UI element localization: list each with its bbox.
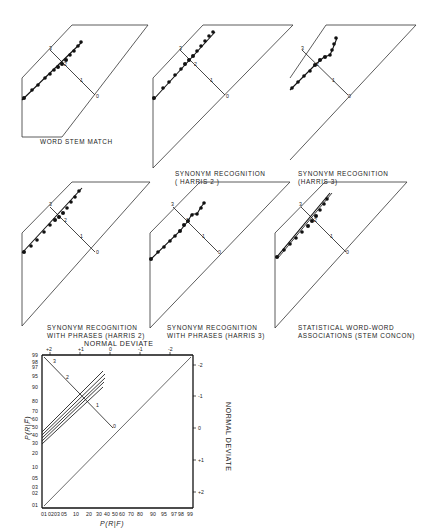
right-axis-title: NORMAL DEVIATE [225,402,232,471]
right-tick: -1 [198,393,203,399]
x-tick: 01 [41,511,47,517]
x-tick: 95 [161,511,167,517]
diag-tick-1: 1 [80,77,83,83]
panel-synonym-harris-2: 3 2 1 0 SYNONYM RECOGNITION( HARRIS 2 ) [145,20,295,180]
diag-tick-3: 3 [171,201,174,207]
diag-tick-0: 0 [96,249,99,255]
diag-tick-2: 2 [194,61,197,67]
panel-label [198,308,203,324]
diag-tick-3: 3 [301,45,304,51]
panel-label: WORD STEM MATCH [40,122,113,162]
diag-tick-0: 0 [346,249,349,255]
diag-tick-1: 1 [96,402,99,408]
top-tick: -1 [138,346,143,352]
x-tick: 03 [54,511,60,517]
y-tick: 90 [32,384,38,390]
y-tick: 40 [32,432,38,438]
x-tick: 70 [128,511,134,517]
diag-tick-0: 0 [96,93,99,99]
x-tick: 60 [119,511,125,517]
normal-deviate-chart: NORMAL DEVIATE +2 +1 0 -1 -2 -2 -1 0 +1 … [0,340,439,532]
diag-tick-1: 1 [80,233,83,239]
y-tick: 60 [32,416,38,422]
x-tick: 40 [104,511,110,517]
y-tick: 30 [32,440,38,446]
diag-tick-1: 1 [202,233,205,239]
top-tick: +1 [78,346,84,352]
y-tick: 02 [32,490,38,496]
diag-tick-1: 1 [330,233,333,239]
main-plot [0,340,439,532]
y-tick: 99 [32,352,38,358]
panel-synonym-phrases-harris-2: 3 2 1 0 SYNONYM RECOGNITIONWITH PHRASES … [0,180,150,340]
y-tick: 05 [32,475,38,481]
diag-tick-0: 0 [113,423,116,429]
panel-word-stem-match: 3 2 1 0 WORD STEM MATCH [0,20,150,180]
x-tick: 10 [73,511,79,517]
top-tick: +2 [46,346,52,352]
diag-tick-3: 3 [179,45,182,51]
x-tick: 05 [61,511,67,517]
x-axis-title: P(R|F) [100,520,124,527]
right-tick: 0 [198,425,201,431]
x-tick: 02 [48,511,54,517]
diag-tick-2: 2 [314,217,317,223]
x-tick: 98 [178,511,184,517]
diag-tick-3: 3 [53,358,56,364]
diag-tick-2: 2 [186,217,189,223]
x-tick: 20 [86,511,92,517]
diag-tick-2: 2 [316,61,319,67]
right-tick: +2 [198,489,204,495]
x-tick: 97 [171,511,177,517]
right-tick: -2 [198,362,203,368]
diag-tick-2: 2 [66,374,69,380]
x-tick: 80 [137,511,143,517]
panel-synonym-phrases-harris-3: 3 2 1 0 SYNONYM RECOGNITIONWITH PHRASES … [145,180,295,340]
y-tick: 80 [32,398,38,404]
diag-tick-0: 0 [218,249,221,255]
top-axis-title: NORMAL DEVIATE [84,340,153,347]
top-tick: 0 [109,346,112,352]
diag-tick-0: 0 [226,93,229,99]
x-tick: 30 [96,511,102,517]
y-tick: 50 [32,424,38,430]
diag-tick-3: 3 [299,201,302,207]
panel-label [147,308,152,324]
panel-synonym-harris-3: 3 2 1 0 SYNONYM RECOGNITION(HARRIS 3) [290,20,439,180]
top-tick: -2 [168,346,173,352]
diag-tick-2: 2 [64,217,67,223]
diag-tick-0: 0 [348,93,351,99]
diag-tick-3: 3 [49,201,52,207]
y-tick: 01 [32,502,38,508]
x-tick: 99 [187,511,193,517]
y-axis-title: P(R|F̅) [24,416,31,440]
diag-tick-1: 1 [210,77,213,83]
diag-tick-1: 1 [332,77,335,83]
x-tick: 50 [112,511,118,517]
x-tick: 90 [150,511,156,517]
y-tick: 70 [32,408,38,414]
y-tick: 95 [32,373,38,379]
y-tick: 97 [32,364,38,370]
y-tick: 10 [32,464,38,470]
diag-tick-3: 3 [49,45,52,51]
y-tick: 20 [32,450,38,456]
right-tick: +1 [198,457,204,463]
diag-tick-2: 2 [64,61,67,67]
